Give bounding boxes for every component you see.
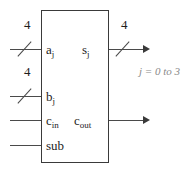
- port-label-sub: sub: [46, 139, 64, 152]
- port-label-b: bj: [46, 90, 55, 103]
- arrow-head-cout-icon: [143, 116, 150, 124]
- bus-width-a-label: 4: [24, 18, 31, 31]
- port-label-cout-text: c: [74, 113, 80, 128]
- index-range-annotation: j = 0 to 3: [139, 66, 180, 77]
- logic-block-diagram: 4 4 4 aj bj cin sub sj cout j = 0 to 3: [0, 0, 194, 176]
- port-label-a: aj: [46, 43, 54, 56]
- port-label-s-subscript: j: [87, 49, 90, 59]
- port-label-b-text: b: [46, 89, 53, 104]
- port-label-a-subscript: j: [52, 49, 55, 59]
- bus-width-b-label: 4: [24, 65, 31, 78]
- port-label-s: sj: [82, 43, 90, 56]
- port-label-b-subscript: j: [53, 96, 56, 106]
- port-label-cin: cin: [46, 114, 59, 127]
- port-label-cin-subscript: in: [52, 120, 59, 130]
- bus-width-s-label: 4: [121, 18, 128, 31]
- arrow-head-s-icon: [143, 45, 150, 53]
- input-wire-a: [10, 49, 42, 50]
- port-label-cin-text: c: [46, 113, 52, 128]
- input-wire-b: [10, 96, 42, 97]
- port-label-a-text: a: [46, 42, 52, 57]
- port-label-cout: cout: [74, 114, 91, 127]
- port-label-cout-subscript: out: [80, 120, 92, 130]
- input-wire-cin: [10, 120, 42, 121]
- output-wire-s: [109, 49, 145, 50]
- output-wire-cout: [109, 120, 145, 121]
- input-wire-sub: [10, 145, 42, 146]
